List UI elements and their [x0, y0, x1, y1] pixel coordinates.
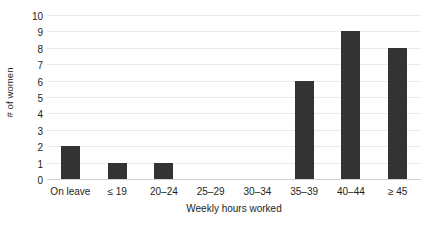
x-tick-label: 25–29 — [197, 185, 225, 198]
bar[interactable] — [388, 48, 407, 179]
bar[interactable] — [108, 163, 127, 179]
x-axis-title: Weekly hours worked — [47, 203, 421, 214]
y-axis-tick-labels: 012345678910 — [20, 9, 43, 181]
y-tick-label: 0 — [20, 175, 43, 186]
bar-chart-figure: # of women 012345678910 On leave≤ 1920–2… — [0, 0, 430, 229]
bar[interactable] — [341, 31, 360, 179]
y-tick-label: 10 — [20, 11, 43, 22]
y-tick-label: 6 — [20, 76, 43, 87]
y-tick-label: 7 — [20, 60, 43, 71]
bars-group — [47, 15, 421, 180]
y-tick-label: 5 — [20, 93, 43, 104]
x-tick-label: 30–34 — [243, 185, 271, 198]
x-tick-label: On leave — [50, 185, 90, 198]
y-tick-label: 9 — [20, 27, 43, 38]
y-tick-label: 2 — [20, 142, 43, 153]
bar[interactable] — [154, 163, 173, 179]
y-tick-label: 1 — [20, 158, 43, 169]
y-axis-title-text: # of women — [4, 67, 15, 117]
x-tick-label: 20–24 — [150, 185, 178, 198]
bar[interactable] — [295, 81, 314, 179]
y-axis-title: # of women — [0, 0, 18, 185]
x-axis-tick-labels: On leave≤ 1920–2425–2930–3435–3940–44≥ 4… — [47, 185, 421, 201]
x-tick-label: ≤ 19 — [107, 185, 126, 198]
y-tick-label: 3 — [20, 125, 43, 136]
y-tick-label: 4 — [20, 109, 43, 120]
y-tick-label: 8 — [20, 43, 43, 54]
x-tick-label: 40–44 — [337, 185, 365, 198]
x-tick-label: 35–39 — [290, 185, 318, 198]
bar[interactable] — [61, 146, 80, 179]
x-tick-label: ≥ 45 — [388, 185, 407, 198]
plot-area — [47, 15, 421, 180]
